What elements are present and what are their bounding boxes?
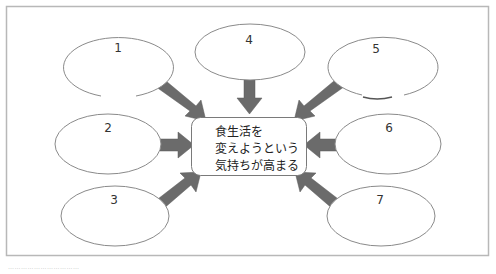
node-7: 7 bbox=[327, 186, 435, 246]
arrow-6-icon bbox=[304, 132, 337, 158]
footer-caption: …………………………… bbox=[8, 263, 80, 270]
center-line-2: 変えようという bbox=[215, 141, 299, 156]
node-1: 1 bbox=[64, 38, 174, 96]
node-label-2: 2 bbox=[104, 121, 112, 135]
arrow-2-icon bbox=[160, 132, 194, 158]
ellipse-5 bbox=[328, 37, 438, 95]
arrow-4-icon bbox=[237, 80, 262, 114]
center-node: 食生活を 変えようという 気持ちが高まる bbox=[192, 118, 307, 176]
node-2: 2 bbox=[55, 114, 161, 174]
diagram-canvas: 1 2 3 4 5 6 7 食生活を 変えようという 気持ちが高まる bbox=[0, 0, 496, 274]
center-line-1: 食生活を bbox=[215, 124, 263, 139]
node-label-1: 1 bbox=[114, 41, 122, 55]
node-label-5: 5 bbox=[372, 42, 380, 56]
node-label-7: 7 bbox=[376, 193, 384, 207]
node-label-6: 6 bbox=[385, 121, 393, 135]
node-3: 3 bbox=[61, 186, 169, 246]
node-4: 4 bbox=[195, 24, 305, 80]
node-5: 5 bbox=[328, 37, 438, 99]
node-label-3: 3 bbox=[110, 193, 118, 207]
center-line-3: 気持ちが高まる bbox=[215, 158, 299, 173]
node-label-4: 4 bbox=[245, 33, 253, 47]
node-6: 6 bbox=[335, 114, 441, 174]
ellipse-5-fragment bbox=[363, 97, 392, 99]
